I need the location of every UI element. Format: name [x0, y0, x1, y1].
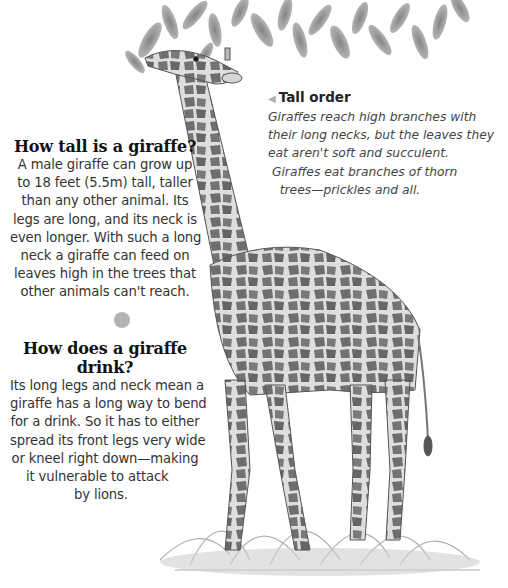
section-heading: How tall is a giraffe?	[10, 137, 200, 156]
separator-dot-icon	[114, 312, 130, 328]
body-line: than any other animal. Its	[10, 192, 200, 210]
caption-title: ◀Tall order	[268, 88, 508, 108]
pointer-arrow-icon: ◀	[268, 93, 276, 104]
body-line: A male giraffe can grow up	[10, 156, 200, 174]
body-line: leaves high in the trees that	[10, 265, 200, 283]
caption-line: trees—prickles and all.	[268, 181, 508, 199]
caption-body: Giraffes reach high branches with their …	[268, 108, 508, 199]
body-line: by lions.	[10, 486, 200, 504]
caption-title-text: Tall order	[279, 89, 351, 105]
caption-line: Giraffes eat branches of thorn	[268, 163, 508, 181]
body-line: Its long legs and neck mean a	[10, 377, 200, 395]
body-line: it vulnerable to attack	[10, 468, 200, 486]
section-heading: How does a giraffe drink?	[10, 339, 200, 377]
body-line: giraffe has a long way to bend	[10, 395, 200, 413]
heading-line: drink?	[10, 358, 200, 377]
caption-tall-order: ◀Tall order Giraffes reach high branches…	[268, 88, 508, 199]
heading-line: How does a giraffe	[10, 339, 200, 358]
section-body: Its long legs and neck mean a giraffe ha…	[10, 377, 200, 504]
body-line: other animals can't reach.	[10, 283, 200, 301]
section-how-tall: How tall is a giraffe? A male giraffe ca…	[10, 137, 200, 302]
body-line: neck a giraffe can feed on	[10, 247, 200, 265]
body-line: to 18 feet (5.5m) tall, taller	[10, 174, 200, 192]
body-line: even longer. With such a long	[10, 229, 200, 247]
caption-line: their long necks, but the leaves they	[268, 126, 508, 144]
body-line: or kneel right down—making	[10, 450, 200, 468]
caption-line: Giraffes reach high branches with	[268, 108, 508, 126]
section-body: A male giraffe can grow up to 18 feet (5…	[10, 156, 200, 302]
section-how-drink: How does a giraffe drink? Its long legs …	[10, 339, 200, 504]
body-line: for a drink. So it has to either	[10, 413, 200, 431]
body-line: spread its front legs very wide	[10, 432, 200, 450]
body-line: legs are long, and its neck is	[10, 211, 200, 229]
caption-line: eat aren't soft and succulent.	[268, 144, 508, 162]
